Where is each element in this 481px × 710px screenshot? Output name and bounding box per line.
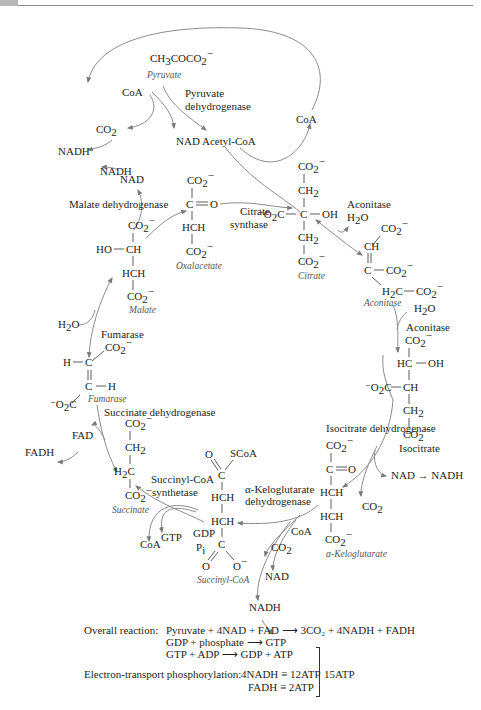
atp-total-bracket [316,647,320,697]
electron-transport-label: Electron-transport phosphorylation: [84,668,241,680]
atp-total: 15ATP [324,668,355,680]
electron-transport-line-2: FADH ≡ 2ATP [248,681,314,693]
overall-reaction-label: Overall reaction: [84,624,158,636]
overall-reaction-line-3: GTP + ADP ⟶ GDP + ATP [166,648,293,661]
summary-section: Overall reaction: Pyruvate + 4NAD + FAD … [0,0,481,710]
electron-transport-line-1: 4NADH ≡ 12ATP [241,668,321,680]
